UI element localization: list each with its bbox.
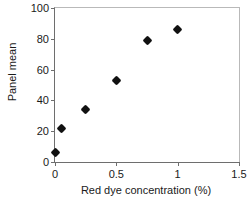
y-tick-label: 20 [37, 126, 49, 137]
y-axis-label: Panel mean [6, 24, 18, 120]
x-tick-label: 1 [175, 169, 181, 180]
y-tick-mark [51, 100, 55, 101]
y-tick-label: 60 [37, 64, 49, 75]
y-tick-mark [51, 8, 55, 9]
scatter-point [142, 35, 152, 45]
chart-figure: 020406080100 00.511.5 Red dye concentrat… [0, 0, 250, 206]
plot-area: 020406080100 00.511.5 [54, 7, 240, 163]
x-tick-label: 1.5 [231, 169, 246, 180]
scatter-point [173, 25, 183, 35]
x-tick-label: 0.5 [109, 169, 124, 180]
scatter-point [111, 75, 121, 85]
scatter-point [81, 105, 91, 115]
x-tick-mark [116, 162, 117, 166]
x-axis-label: Red dye concentration (%) [54, 184, 238, 196]
scatter-point [56, 123, 66, 133]
x-tick-mark [178, 162, 179, 166]
y-tick-label: 80 [37, 33, 49, 44]
x-tick-label: 0 [52, 169, 58, 180]
scatter-point [50, 148, 60, 158]
y-tick-label: 100 [31, 3, 49, 14]
y-tick-mark [51, 131, 55, 132]
x-tick-mark [239, 162, 240, 166]
y-tick-mark [51, 39, 55, 40]
x-tick-mark [55, 162, 56, 166]
y-tick-mark [51, 70, 55, 71]
y-tick-label: 40 [37, 95, 49, 106]
y-tick-label: 0 [43, 157, 49, 168]
